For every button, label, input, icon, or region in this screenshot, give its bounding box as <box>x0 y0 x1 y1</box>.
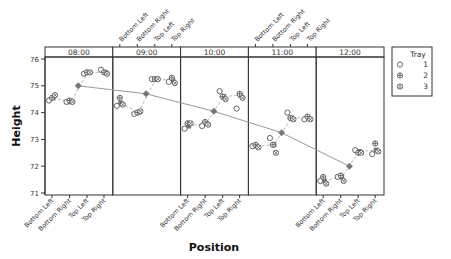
panel-label: 10:00 <box>204 48 226 57</box>
panel-frame <box>248 57 316 195</box>
legend-title: Tray <box>409 50 426 59</box>
data-points <box>46 67 380 186</box>
tray-1-point <box>234 106 239 111</box>
tray-1-point <box>114 103 119 108</box>
legend-label: 2 <box>423 71 428 80</box>
tray-1-point <box>267 135 272 140</box>
y-tick-label: 72 <box>30 163 39 171</box>
hour-mean-line <box>51 70 379 184</box>
panel-label: 09:00 <box>136 48 158 57</box>
legend-marker-1 <box>397 62 402 67</box>
chart: 717273747576 Height Position 08:00Bottom… <box>0 0 451 259</box>
x-tick-label: Top Right <box>304 16 332 44</box>
y-tick-label: 76 <box>30 56 39 64</box>
legend-label: 1 <box>423 60 428 69</box>
legend: Tray123 <box>392 47 432 96</box>
hour-mean-marker <box>278 129 285 136</box>
tray-1-point <box>370 152 375 157</box>
hour-mean-marker <box>75 82 82 89</box>
x-tick-label: Top Right <box>169 16 197 44</box>
panel-frame <box>45 57 113 195</box>
panel-label: 12:00 <box>339 48 361 57</box>
legend-label: 3 <box>423 82 428 91</box>
y-tick-label: 71 <box>30 190 39 198</box>
tray-1-point <box>217 89 222 94</box>
hour-mean-marker <box>143 90 150 97</box>
panel-label: 11:00 <box>271 48 293 57</box>
y-axis-title: Height <box>10 105 23 146</box>
y-tick-label: 75 <box>30 82 39 90</box>
panel-frame <box>316 57 384 195</box>
y-tick-label: 74 <box>30 109 39 117</box>
tray-1-point <box>285 110 290 115</box>
x-axis-title: Position <box>189 241 239 254</box>
y-tick-label: 73 <box>30 136 39 144</box>
hour-mean-marker <box>346 163 353 170</box>
panel-label: 08:00 <box>68 48 90 57</box>
y-axis: 717273747576 <box>30 56 45 198</box>
tray-1-point <box>182 126 187 131</box>
hour-mean-marker <box>210 108 217 115</box>
